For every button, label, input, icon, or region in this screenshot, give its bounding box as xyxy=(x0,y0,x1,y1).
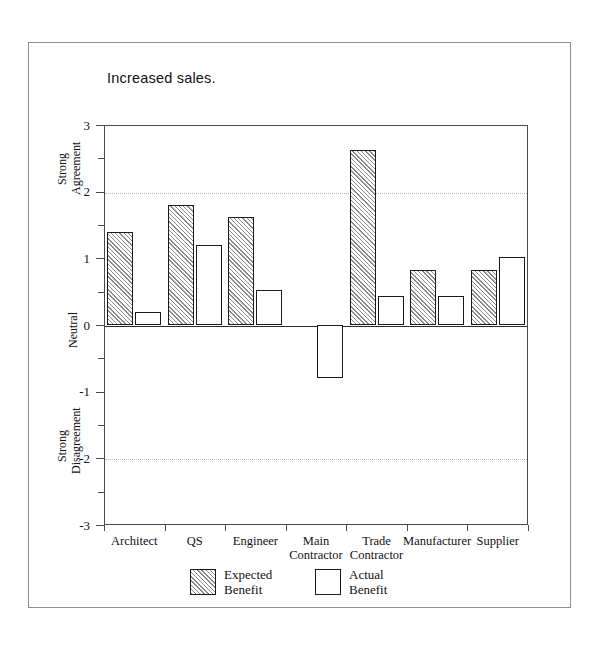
bar-main-contractor-actual xyxy=(317,325,343,378)
y-tick-minus3 xyxy=(96,525,104,526)
y-axis-label-minus1: -1 xyxy=(50,384,90,400)
x-tick-0 xyxy=(165,525,166,531)
y-tick-minor-1p5 xyxy=(98,225,104,226)
legend-label-expected-line1: Expected xyxy=(224,567,272,582)
y-tick-minor-0p5 xyxy=(98,292,104,293)
bar-architect-expected xyxy=(107,232,133,325)
y-axis-label-minus3: -3 xyxy=(50,518,90,534)
bar-supplier-expected xyxy=(471,270,497,325)
legend-label-actual-line2: Benefit xyxy=(349,582,387,597)
bar-engineer-actual xyxy=(256,290,282,325)
y-tick-minor-m0p5 xyxy=(98,358,104,359)
gridline-minus2 xyxy=(105,459,527,460)
y-anchor-strong-agreement-line1: Strong xyxy=(55,153,70,185)
legend-label-expected-line2: Benefit xyxy=(224,582,272,597)
x-axis-label-line: Contractor xyxy=(340,548,413,562)
chart-figure: Increased sales. 3 2 1 0 -1 -2 -3 Strong… xyxy=(0,0,603,646)
x-tick-2 xyxy=(286,525,287,531)
bar-supplier-actual xyxy=(499,257,525,325)
y-tick-2 xyxy=(96,192,104,193)
x-tick-origin xyxy=(104,525,105,531)
y-tick-3 xyxy=(96,125,104,126)
y-anchor-strong-disagreement-line1: Strong xyxy=(55,430,70,462)
chart-title: Increased sales. xyxy=(107,70,216,86)
y-axis-label-1: 1 xyxy=(50,251,90,267)
y-tick-1 xyxy=(96,258,104,259)
bar-qs-actual xyxy=(196,245,222,325)
legend-swatch-expected-icon xyxy=(190,569,216,595)
legend-label-expected: Expected Benefit xyxy=(224,567,272,597)
y-anchor-strong-agreement-line2: Agreement xyxy=(69,142,84,195)
bar-trade-contractor-actual xyxy=(378,296,404,325)
plot-area xyxy=(104,125,528,525)
bar-trade-contractor-expected xyxy=(350,150,376,325)
y-anchor-strong-disagreement-line2: Disagreement xyxy=(69,407,84,474)
y-tick-minor-m1p5 xyxy=(98,425,104,426)
legend-label-actual: Actual Benefit xyxy=(349,567,387,597)
x-tick-4 xyxy=(407,525,408,531)
x-axis-label-supplier: Supplier xyxy=(461,534,534,548)
bar-qs-expected xyxy=(168,205,194,325)
legend-label-actual-line1: Actual xyxy=(349,567,387,582)
y-tick-minus1 xyxy=(96,392,104,393)
legend-swatch-actual-icon xyxy=(315,569,341,595)
y-tick-0 xyxy=(96,325,104,326)
y-axis-label-3: 3 xyxy=(50,118,90,134)
bar-manufacturer-expected xyxy=(410,270,436,325)
x-axis-label-line: Supplier xyxy=(461,534,534,548)
bar-architect-actual xyxy=(135,312,161,325)
y-tick-minor-2p5 xyxy=(98,158,104,159)
gridline-2 xyxy=(105,193,527,194)
y-tick-minus2 xyxy=(96,458,104,459)
chart-legend: Expected Benefit Actual Benefit xyxy=(190,567,430,607)
x-tick-6 xyxy=(528,525,529,531)
x-tick-3 xyxy=(346,525,347,531)
bar-manufacturer-actual xyxy=(438,296,464,325)
zero-axis-line xyxy=(105,326,527,327)
x-tick-1 xyxy=(225,525,226,531)
y-anchor-neutral: Neutral xyxy=(66,312,81,348)
y-tick-minor-m2p5 xyxy=(98,492,104,493)
bar-engineer-expected xyxy=(228,217,254,325)
x-tick-5 xyxy=(467,525,468,531)
